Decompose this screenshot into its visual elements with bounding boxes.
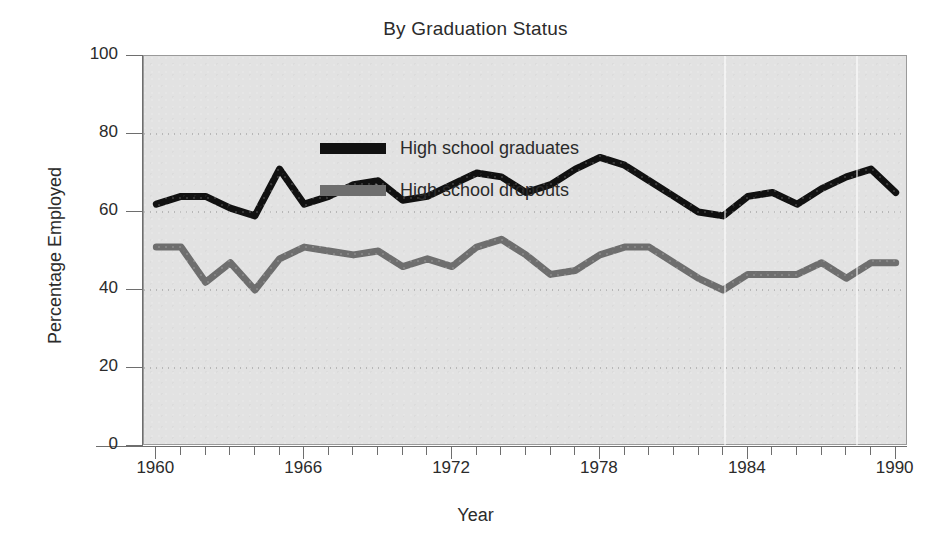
legend-swatch-dropouts — [320, 185, 386, 196]
y-axis-title: Percentage Employed — [45, 56, 66, 456]
chart-figure: By Graduation Status Percentage Employed… — [0, 0, 951, 550]
x-tick-1967 — [328, 446, 329, 455]
x-tick-label-1984: 1984 — [702, 458, 792, 478]
x-tick-1973 — [476, 446, 477, 455]
legend-item-dropouts: High school dropouts — [320, 175, 579, 205]
x-axis-line — [96, 446, 907, 447]
x-tick-label-1978: 1978 — [554, 458, 644, 478]
x-tick-1979 — [624, 446, 625, 455]
y-tick-label-20: 20 — [58, 356, 118, 376]
x-tick-label-1972: 1972 — [406, 458, 496, 478]
y-tick-label-80: 80 — [58, 122, 118, 142]
y-tick-20 — [126, 367, 142, 368]
scan-artifact-streak-2 — [856, 56, 858, 446]
plot-svg — [144, 56, 906, 444]
y-tick-label-0: 0 — [58, 434, 118, 454]
y-tick-label-40: 40 — [58, 278, 118, 298]
scan-artifact-streak-1 — [724, 56, 726, 446]
legend-label-graduates: High school graduates — [400, 138, 579, 159]
x-tick-1969 — [377, 446, 378, 455]
x-tick-1974 — [500, 446, 501, 455]
x-tick-1977 — [574, 446, 575, 455]
series-line-dropouts — [156, 239, 895, 290]
legend-item-graduates: High school graduates — [320, 133, 579, 163]
x-tick-1961 — [180, 446, 181, 455]
x-tick-1980 — [648, 446, 649, 455]
x-tick-label-1990: 1990 — [850, 458, 940, 478]
x-tick-1986 — [796, 446, 797, 455]
x-tick-1975 — [525, 446, 526, 455]
x-tick-1985 — [771, 446, 772, 455]
y-tick-100 — [126, 55, 142, 56]
x-tick-1970 — [402, 446, 403, 455]
y-tick-label-100: 100 — [58, 44, 118, 64]
x-tick-1965 — [279, 446, 280, 455]
x-tick-1976 — [550, 446, 551, 455]
x-tick-label-1960: 1960 — [110, 458, 200, 478]
x-tick-1964 — [254, 446, 255, 455]
x-tick-label-1966: 1966 — [258, 458, 348, 478]
chart-legend: High school graduates High school dropou… — [320, 133, 579, 217]
x-tick-1971 — [426, 446, 427, 455]
x-tick-1987 — [821, 446, 822, 455]
x-tick-1962 — [205, 446, 206, 455]
x-tick-1982 — [698, 446, 699, 455]
y-tick-80 — [126, 133, 142, 134]
y-tick-40 — [126, 289, 142, 290]
x-axis-title: Year — [0, 505, 951, 526]
plot-area: High school graduates High school dropou… — [143, 55, 907, 445]
x-tick-1988 — [845, 446, 846, 455]
x-tick-1963 — [229, 446, 230, 455]
x-tick-1983 — [722, 446, 723, 455]
x-tick-1981 — [673, 446, 674, 455]
y-tick-60 — [126, 211, 142, 212]
x-tick-1989 — [870, 446, 871, 455]
legend-label-dropouts: High school dropouts — [400, 180, 569, 201]
chart-title: By Graduation Status — [0, 18, 951, 40]
legend-swatch-graduates — [320, 143, 386, 154]
y-tick-label-60: 60 — [58, 200, 118, 220]
y-tick-0 — [126, 445, 142, 446]
x-tick-1968 — [352, 446, 353, 455]
